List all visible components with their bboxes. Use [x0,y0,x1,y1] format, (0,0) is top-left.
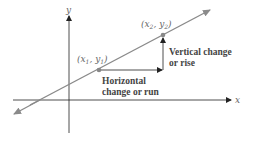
point-2-label: (x2, y2) [141,19,172,30]
rise-label-line2: or rise [169,58,195,68]
line-back [14,100,40,114]
rise-label-line1: Vertical change [169,47,232,57]
run-label-line1: Horizontal [102,76,146,86]
x-axis-label: x [235,95,240,105]
point-2 [161,33,166,38]
point-1 [97,68,102,73]
y-axis-label: y [65,5,72,15]
run-label-line2: change or run [102,87,160,97]
diagram-svg: x y (x1, y1) (x2, y2) Vertical change or… [0,0,253,147]
slope-diagram: x y (x1, y1) (x2, y2) Vertical change or… [0,0,253,147]
point-1-label: (x1, y1) [77,54,108,65]
